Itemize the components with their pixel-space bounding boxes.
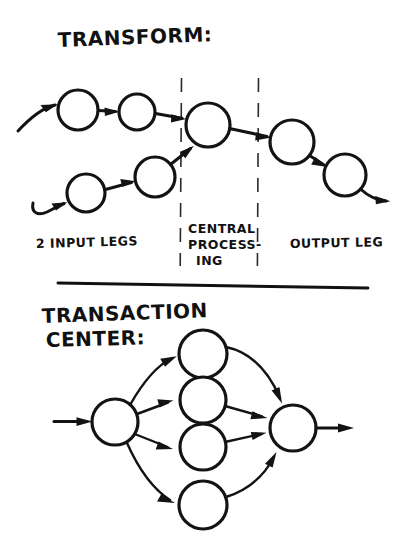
transaction-center-title-line-1: TRANSACTION bbox=[41, 298, 208, 328]
caption-input-legs: 2 INPUT LEGS bbox=[36, 233, 138, 251]
edge-in-a2-to-central-head bbox=[171, 114, 186, 122]
caption-output-leg: OUTPUT LEG bbox=[290, 234, 384, 251]
node-tc-sink bbox=[270, 405, 316, 451]
edge-tc-source-to-branch-3-head bbox=[156, 441, 173, 449]
edge-tc-branch-4-to-sink-head bbox=[265, 452, 277, 468]
edge-tc-source-to-branch-2-head bbox=[157, 399, 173, 407]
node-tc-branch-3 bbox=[180, 424, 226, 470]
node-out-1 bbox=[270, 120, 314, 164]
caption-central-line-2: PROCESS- bbox=[188, 237, 262, 252]
node-tc-branch-2 bbox=[180, 377, 226, 423]
transform-title: TRANSFORM: bbox=[57, 22, 212, 52]
node-in-b1 bbox=[67, 174, 105, 212]
divider-left bbox=[180, 78, 181, 266]
tc-entry-arrow-head bbox=[77, 417, 93, 426]
caption-central-line-3: ING bbox=[196, 253, 223, 268]
edge-tc-branch-2-to-sink-head bbox=[250, 411, 267, 419]
node-central-processing bbox=[186, 103, 230, 147]
edge-tc-branch-1-to-sink bbox=[226, 347, 280, 398]
node-tc-branch-1 bbox=[179, 330, 227, 378]
edge-tc-branch-1-to-sink-head bbox=[272, 387, 282, 404]
edge-in-a1-to-in-a2-head bbox=[105, 108, 120, 116]
caption-central-line-1: CENTRAL bbox=[188, 221, 255, 236]
section-separator bbox=[58, 283, 368, 288]
edge-tc-source-to-branch-4 bbox=[127, 443, 170, 500]
node-in-b2 bbox=[135, 157, 175, 197]
exit-arrow-head bbox=[375, 196, 390, 204]
transaction-center-section: TRANSACTION CENTER: bbox=[41, 298, 354, 529]
sketch-canvas: TRANSFORM: bbox=[0, 0, 415, 556]
node-tc-branch-4 bbox=[179, 481, 227, 529]
edge-tc-source-to-branch-4-head bbox=[157, 494, 175, 503]
node-in-a1 bbox=[58, 90, 98, 130]
edge-tc-branch-3-to-sink-head bbox=[251, 432, 267, 440]
node-tc-source bbox=[92, 399, 138, 445]
node-in-a2 bbox=[119, 94, 155, 130]
edge-in-b1-to-in-b2-head bbox=[120, 179, 136, 187]
transform-section: TRANSFORM: bbox=[18, 22, 391, 268]
transaction-center-title-line-2: CENTER: bbox=[46, 325, 146, 352]
tc-exit-arrow-head bbox=[338, 424, 354, 433]
